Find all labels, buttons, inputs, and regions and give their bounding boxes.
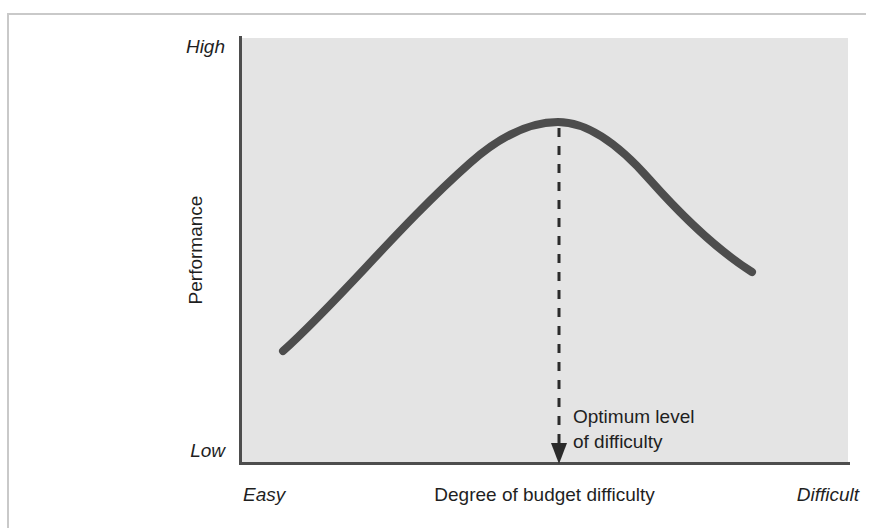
optimum-annotation: Optimum level of difficulty <box>573 404 694 454</box>
chart-figure: High Low Performance Easy Degree of budg… <box>0 0 869 528</box>
optimum-annotation-line2: of difficulty <box>573 429 694 454</box>
optimum-arrowhead-icon <box>551 443 567 464</box>
figure-root: High Low Performance Easy Degree of budg… <box>0 0 869 528</box>
performance-curve <box>283 122 752 351</box>
chart-graphics <box>0 0 869 528</box>
optimum-annotation-line1: Optimum level <box>573 404 694 429</box>
